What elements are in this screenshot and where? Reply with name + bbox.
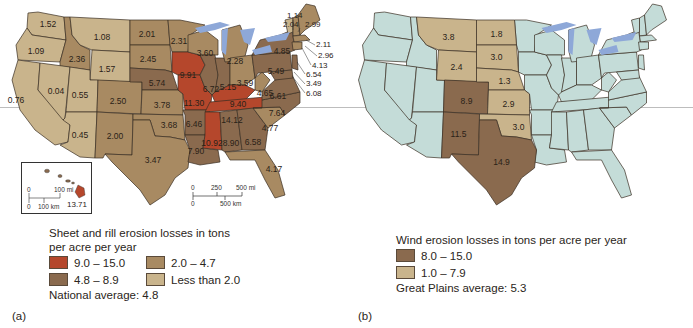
- hawaii-inset: 0 100 mi 0 100 km 13.71: [21, 162, 92, 214]
- state-wi[interactable]: [535, 30, 565, 55]
- value-de: 3.49: [306, 79, 322, 88]
- state-nj[interactable]: [639, 55, 645, 70]
- value-nh: 2.04: [283, 20, 299, 29]
- value-wy: 2.4: [451, 62, 463, 72]
- state-oh[interactable]: [577, 55, 602, 85]
- value-ks: 2.9: [503, 99, 515, 109]
- value-ga: 6.58: [245, 137, 262, 147]
- value-ar: 6.46: [186, 119, 203, 129]
- value-id: 2.36: [69, 54, 86, 64]
- value-nd: 1.8: [491, 29, 503, 39]
- value-ok: 3.0: [513, 122, 525, 132]
- legend-item-med-high: 4.8 – 8.9: [49, 271, 146, 288]
- legend-title: Wind erosion losses in tons per acre per…: [396, 233, 686, 247]
- value-tx: 14.9: [493, 157, 510, 167]
- value-ct: 4.13: [312, 61, 328, 70]
- value-tx: 3.47: [145, 155, 162, 165]
- panel-b-wind-erosion: 3.8 1.8 3.0 2.4 1.3 8.9 2.9 3.0 11.5 14.…: [345, 0, 693, 328]
- state-ms[interactable]: [550, 112, 569, 150]
- value-sd: 2.45: [140, 54, 157, 64]
- panel-a-sheet-rill-erosion: 1.52 1.09 0.76 2.36 0.04 1.08 1.57 0.55 …: [0, 0, 345, 328]
- value-co: 2.50: [110, 96, 127, 106]
- state-ct[interactable]: [639, 42, 649, 50]
- svg-text:100 km: 100 km: [38, 203, 59, 210]
- value-mn: 2.31: [171, 36, 188, 46]
- value-md: 6.08: [306, 89, 322, 98]
- legend-item-low: 1.0 – 7.9: [396, 264, 686, 281]
- value-pa: 5.49: [268, 66, 285, 76]
- value-ky: 9.40: [230, 99, 247, 109]
- value-nv: 0.04: [48, 86, 65, 96]
- value-or: 1.09: [28, 46, 45, 56]
- national-average: National average: 4.8: [49, 288, 309, 302]
- svg-text:500 mi: 500 mi: [236, 184, 256, 191]
- value-fl: 4.17: [266, 164, 283, 174]
- swatch-med-high: [49, 273, 68, 286]
- value-sc: 4.77: [262, 123, 279, 133]
- value-mi: 2.28: [227, 56, 244, 66]
- value-ne: 1.3: [499, 76, 511, 86]
- legend-title-line2: per acre per year: [49, 240, 309, 254]
- swatch-high: [396, 249, 415, 262]
- value-mt: 3.8: [443, 32, 455, 42]
- svg-text:500 km: 500 km: [220, 200, 241, 207]
- value-wv: 4.65: [257, 88, 274, 98]
- legend-title-line1: Sheet and rill erosion losses in tons: [49, 226, 309, 240]
- value-vt: 1.14: [287, 11, 303, 20]
- svg-text:0: 0: [191, 200, 195, 207]
- value-co: 8.9: [461, 96, 473, 106]
- legend-sheet-rill: Sheet and rill erosion losses in tons pe…: [49, 226, 309, 302]
- scale-bar: 0 250 500 mi 0 500 km: [191, 184, 256, 207]
- value-sd: 3.0: [491, 52, 503, 62]
- value-nm: 11.5: [451, 129, 467, 139]
- hawaii-islands: [45, 169, 86, 198]
- value-in: 5.15: [220, 82, 237, 92]
- svg-text:0: 0: [191, 184, 195, 191]
- swatch-low: [396, 266, 415, 279]
- legend-item-low: Less than 2.0: [146, 271, 266, 288]
- swatch-high: [49, 256, 68, 269]
- value-wi: 3.60: [197, 48, 214, 58]
- state-me[interactable]: [645, 4, 667, 35]
- value-ny: 4.85: [274, 46, 291, 56]
- value-il: 6.72: [203, 84, 220, 94]
- value-hi: 13.71: [67, 200, 88, 209]
- svg-text:0: 0: [27, 203, 31, 210]
- value-tn: 14.12: [221, 115, 243, 125]
- value-oh: 3.59: [237, 78, 254, 88]
- value-ok: 3.68: [161, 120, 178, 130]
- value-nm: 2.00: [107, 131, 124, 141]
- svg-text:0: 0: [27, 186, 31, 193]
- swatch-low: [146, 273, 165, 286]
- great-plains-average: Great Plains average: 5.3: [396, 281, 686, 295]
- value-nc: 7.64: [269, 108, 286, 118]
- state-ct[interactable]: [292, 42, 302, 50]
- value-ne: 5.74: [149, 78, 166, 88]
- state-md[interactable]: [617, 70, 640, 80]
- state-ma[interactable]: [640, 35, 657, 42]
- value-mo: 11.30: [184, 98, 205, 108]
- value-ia: 9.91: [180, 70, 197, 80]
- value-ut: 0.55: [72, 90, 89, 100]
- panel-label-a: (a): [12, 310, 26, 322]
- value-ca: 0.76: [8, 95, 25, 105]
- value-az: 0.45: [72, 130, 89, 140]
- panel-label-b: (b): [358, 310, 372, 322]
- legend-item-med: 2.0 – 4.7: [146, 254, 266, 271]
- legend-item-high: 9.0 – 15.0: [49, 254, 146, 271]
- legend-wind: Wind erosion losses in tons per acre per…: [396, 233, 686, 295]
- value-al: 8.90: [223, 138, 240, 148]
- state-vt[interactable]: [632, 18, 640, 34]
- value-ks: 3.78: [154, 100, 171, 110]
- svg-text:250: 250: [211, 184, 222, 191]
- state-fl[interactable]: [572, 150, 632, 198]
- swatch-med: [146, 256, 165, 269]
- value-nd: 2.01: [139, 29, 156, 39]
- value-ma: 2.11: [316, 40, 332, 49]
- value-wa: 1.52: [40, 19, 57, 29]
- value-ms: 10.92: [201, 138, 223, 148]
- legend-item-high: 8.0 – 15.0: [396, 247, 686, 264]
- value-ri: 2.96: [318, 51, 334, 60]
- value-mt: 1.08: [94, 32, 111, 42]
- value-wy: 1.57: [99, 64, 116, 74]
